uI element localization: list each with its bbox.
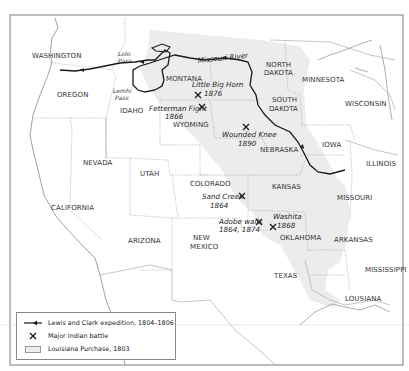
state-label-kansas: KANSAS xyxy=(272,183,301,191)
state-label-oklahoma: OKLAHOMA xyxy=(280,234,321,242)
state-label-north-dakota-2: DAKOTA xyxy=(264,69,293,77)
state-label-wisconsin: WISCONSIN xyxy=(345,100,387,108)
state-label-utah: UTAH xyxy=(140,170,159,178)
state-label-texas: TEXAS xyxy=(273,272,298,280)
battle-label-little-big-horn: Little Big Horn xyxy=(192,80,244,89)
battle-year-wounded-knee: 1890 xyxy=(238,139,257,148)
lolo-pass-label-line2: Pass xyxy=(118,57,132,64)
shaded-swatch-icon xyxy=(23,345,43,353)
crossed-swords-icon xyxy=(23,332,43,340)
state-label-arkansas: ARKANSAS xyxy=(334,236,373,244)
state-label-wyoming: WYOMING xyxy=(173,121,209,129)
state-label-illinois: ILLINOIS xyxy=(366,160,396,168)
battle-label-sand-creek: Sand Creek xyxy=(202,192,244,201)
battle-year-sand-creek: 1864 xyxy=(210,201,229,210)
battle-year-adobe-walls: 1864, 1874 xyxy=(219,225,261,234)
state-label-oregon: OREGON xyxy=(57,91,89,99)
state-label-idaho: IDAHO xyxy=(120,107,144,115)
lolo-pass-label: Lolo xyxy=(118,50,131,57)
battle-label-washita: Washita xyxy=(273,212,302,221)
state-label-nebraska: NEBRASKA xyxy=(260,146,298,154)
legend-item-battle: Major Indian battle xyxy=(23,332,108,340)
state-label-mississippi: MISSISSIPPI xyxy=(365,266,407,274)
legend-item-purchase: Louisiana Purchase, 1803 xyxy=(23,345,130,353)
lemhi-pass-label-line2: Pass xyxy=(115,94,129,101)
state-label-louisiana: LOUSIANA xyxy=(345,295,382,303)
state-label-new-mexico-1: NEW xyxy=(193,234,210,242)
battle-label-wounded-knee: Wounded Knee xyxy=(222,130,277,139)
lemhi-pass-label: Lemhi xyxy=(113,87,132,94)
battle-year-washita: 1868 xyxy=(277,221,296,230)
state-label-minnesota: MINNESOTA xyxy=(302,76,344,84)
state-label-nevada: NEVADA xyxy=(83,159,113,167)
route-arrow-icon xyxy=(23,319,43,327)
state-label-new-mexico-2: MEXICO xyxy=(190,243,219,251)
legend-label-route: Lewis and Clark expedition, 1804–1806 xyxy=(48,319,174,327)
state-label-washington: WASHINGTON xyxy=(32,52,82,60)
state-label-iowa: IOWA xyxy=(322,141,341,149)
map-legend: Lewis and Clark expedition, 1804–1806 Ma… xyxy=(16,312,176,360)
legend-item-route: Lewis and Clark expedition, 1804–1806 xyxy=(23,319,174,327)
state-label-arizona: ARIZONA xyxy=(128,237,161,245)
state-label-colorado: COLORADO xyxy=(190,180,231,188)
legend-label-battle: Major Indian battle xyxy=(48,332,108,340)
battle-year-little-big-horn: 1876 xyxy=(204,89,223,98)
state-label-south-dakota-1: SOUTH xyxy=(272,96,297,104)
state-label-california: CALIFORNIA xyxy=(51,204,94,212)
legend-label-purchase: Louisiana Purchase, 1803 xyxy=(48,345,130,353)
battle-year-fetterman-fight: 1866 xyxy=(165,112,184,121)
state-label-north-dakota-1: NORTH xyxy=(266,61,291,69)
state-label-missouri: MISSOURI xyxy=(337,194,372,202)
state-label-south-dakota-2: DAKOTA xyxy=(269,105,298,113)
